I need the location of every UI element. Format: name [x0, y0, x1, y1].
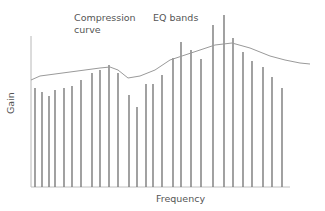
- compression-label-line1: Compression: [74, 12, 136, 24]
- compression-curve: [31, 43, 310, 80]
- compression-label-line2: curve: [74, 24, 101, 36]
- chart-canvas: [0, 0, 325, 211]
- y-axis-label: Gain: [5, 92, 17, 114]
- eq-bands: [35, 15, 282, 187]
- eq-bands-label: EQ bands: [153, 12, 198, 24]
- x-axis-label: Frequency: [156, 193, 205, 205]
